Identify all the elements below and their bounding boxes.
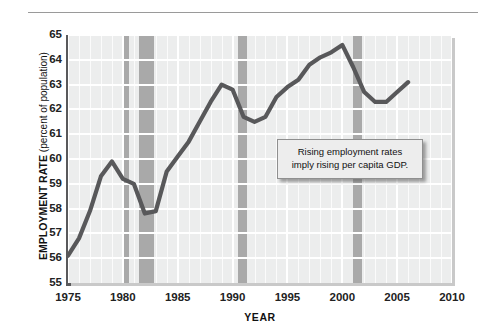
x-tick-label-1975: 1975 bbox=[38, 291, 98, 303]
x-axis-title: YEAR bbox=[68, 311, 452, 323]
header-rule bbox=[28, 12, 478, 13]
annotation-callout: Rising employment rates imply rising per… bbox=[277, 139, 423, 179]
x-tick-label-1980: 1980 bbox=[93, 291, 153, 303]
x-tick-label-1990: 1990 bbox=[203, 291, 263, 303]
x-tick-label-2005: 2005 bbox=[367, 291, 427, 303]
x-tick-label-1985: 1985 bbox=[148, 291, 208, 303]
annotation-line-2: imply rising per capita GDP. bbox=[285, 159, 415, 172]
employment-rate-chart-figure: 5556575859606162636465 19751980198519901… bbox=[0, 0, 491, 333]
y-axis-title-main: EMPLOYMENT RATE bbox=[37, 155, 49, 260]
annotation-line-1: Rising employment rates bbox=[285, 146, 415, 159]
x-tick-label-2000: 2000 bbox=[312, 291, 372, 303]
y-axis-title: EMPLOYMENT RATE (percent of population) bbox=[37, 31, 49, 281]
x-tick-label-1995: 1995 bbox=[257, 291, 317, 303]
x-axis-tick-labels: 19751980198519901995200020052010 bbox=[68, 291, 452, 307]
y-axis-title-sub: (percent of population) bbox=[38, 52, 49, 152]
x-tick-label-2010: 2010 bbox=[422, 291, 482, 303]
